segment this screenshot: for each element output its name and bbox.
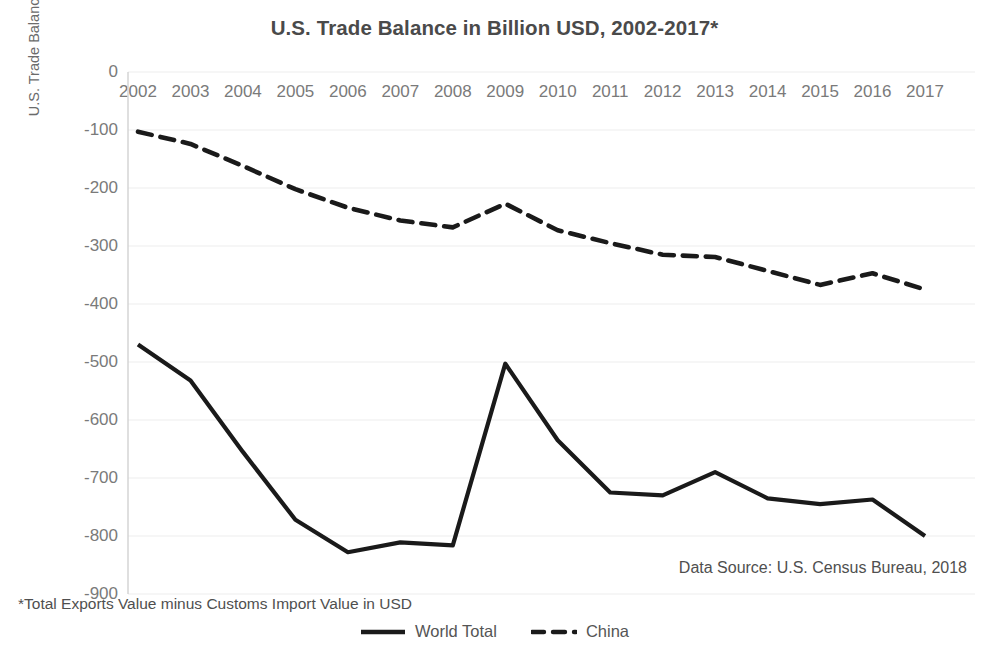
legend-swatch-dashed [531, 626, 577, 638]
plot-area [0, 0, 989, 646]
legend-label: China [586, 622, 629, 641]
legend-item-china[interactable]: China [531, 622, 629, 641]
legend-label: World Total [415, 622, 497, 641]
chart-legend: World TotalChina [0, 622, 989, 641]
series-line-china [138, 132, 925, 290]
trade-balance-chart: U.S. Trade Balance in Billion USD, 2002-… [0, 0, 989, 646]
series-line-world-total [138, 345, 925, 553]
legend-item-world-total[interactable]: World Total [360, 622, 497, 641]
data-source-annotation: Data Source: U.S. Census Bureau, 2018 [679, 559, 967, 577]
footnote-annotation: *Total Exports Value minus Customs Impor… [18, 595, 412, 613]
legend-swatch-solid [360, 626, 406, 638]
